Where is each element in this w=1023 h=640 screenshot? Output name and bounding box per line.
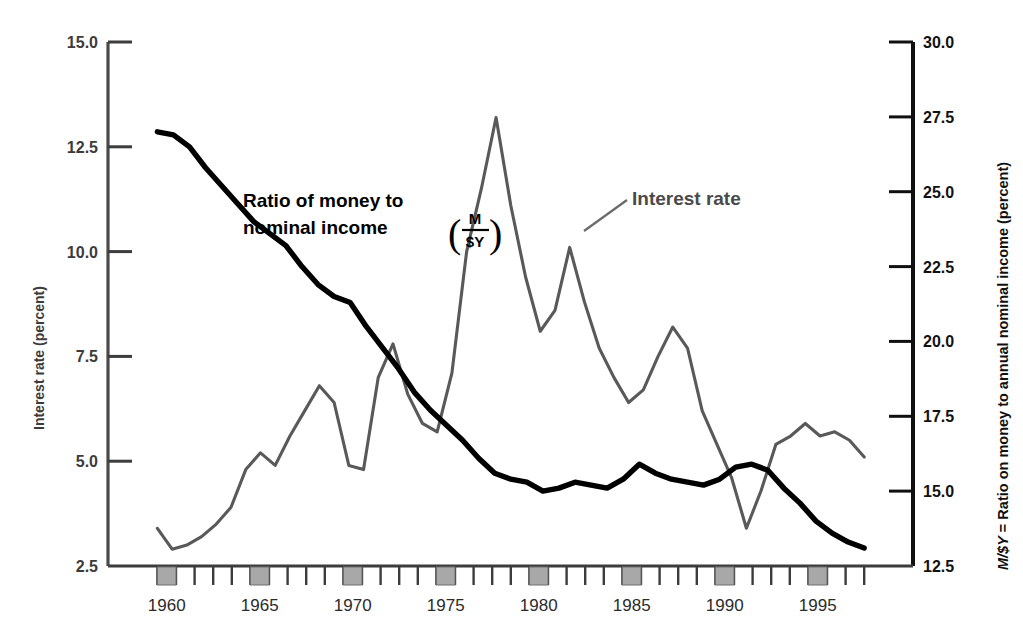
shaded-band-1965: [250, 567, 269, 585]
shaded-band-1990: [715, 567, 734, 585]
shaded-band-1960: [157, 567, 176, 585]
x-axis-label-1965: 1965: [241, 596, 279, 615]
interest-rate-label: Interest rate: [632, 188, 741, 209]
chart-figure: 15.0 12.5 10.0 7.5 5.0 2.5 Interest rate…: [0, 0, 1023, 640]
money-ratio-paren-open: (: [448, 211, 461, 256]
x-axis-label-1960: 1960: [148, 596, 186, 615]
left-axis-label-15-0: 15.0: [67, 34, 98, 51]
left-axis-label-2-5: 2.5: [76, 558, 98, 575]
shaded-band-1980: [529, 567, 548, 585]
right-axis-title-text: = Ratio on money to annual nominal incom…: [995, 162, 1011, 536]
right-axis-label-30-0: 30.0: [923, 34, 954, 51]
chart-canvas: 15.0 12.5 10.0 7.5 5.0 2.5 Interest rate…: [0, 0, 1023, 640]
shaded-band-1970: [343, 567, 362, 585]
shaded-band-1975: [436, 567, 455, 585]
x-axis-label-1985: 1985: [613, 596, 651, 615]
money-ratio-label-line2: nominal income: [243, 217, 388, 238]
right-axis-title: M/$Y = Ratio on money to annual nominal …: [995, 162, 1011, 570]
shaded-band-1985: [622, 567, 641, 585]
money-ratio-paren-close: ): [489, 211, 502, 256]
x-axis-label-1990: 1990: [706, 596, 744, 615]
left-axis-title: Interest rate (percent): [31, 286, 47, 430]
right-axis-title-symbol: M/$Y: [995, 535, 1011, 570]
left-axis-label-12-5: 12.5: [67, 139, 98, 156]
money-ratio-fraction-numerator: M: [469, 210, 482, 227]
right-axis-label-20-0: 20.0: [923, 333, 954, 350]
left-axis-label-10-0: 10.0: [67, 244, 98, 261]
right-axis-label-22-5: 22.5: [923, 259, 954, 276]
right-axis-label-12-5: 12.5: [923, 558, 954, 575]
x-axis-label-1995: 1995: [799, 596, 837, 615]
right-axis-label-15-0: 15.0: [923, 483, 954, 500]
chart-background: [0, 0, 1023, 640]
left-axis-label-7-5: 7.5: [76, 348, 98, 365]
money-ratio-fraction-denominator: $Y: [466, 233, 484, 250]
shaded-band-1995: [808, 567, 827, 585]
right-axis-label-17-5: 17.5: [923, 408, 954, 425]
x-axis-label-1975: 1975: [427, 596, 465, 615]
x-axis-label-1970: 1970: [334, 596, 372, 615]
x-axis-label-1980: 1980: [520, 596, 558, 615]
money-ratio-label-line1: Ratio of money to: [243, 190, 403, 211]
left-axis-label-5-0: 5.0: [76, 453, 98, 470]
right-axis-label-27-5: 27.5: [923, 109, 954, 126]
right-axis-label-25-0: 25.0: [923, 184, 954, 201]
